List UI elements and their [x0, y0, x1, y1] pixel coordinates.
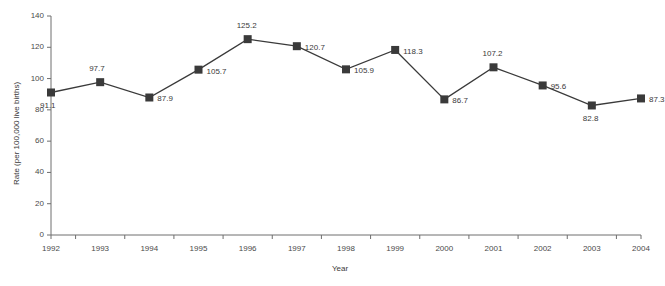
data-point-label: 107.2: [483, 49, 503, 58]
data-point-marker: [391, 46, 399, 54]
data-point-marker: [145, 93, 153, 101]
x-axis-tick-label: 1996: [228, 244, 268, 253]
data-point-label: 95.6: [551, 82, 567, 91]
data-point-marker: [490, 63, 498, 71]
data-point-label: 91.1: [40, 101, 56, 110]
chart-axes: [51, 16, 641, 235]
data-point-marker: [440, 95, 448, 103]
data-point-label: 118.3: [403, 47, 422, 56]
x-axis-tick-label: 1995: [179, 244, 219, 253]
x-axis-tick-label: 2004: [621, 244, 661, 253]
x-axis-tick-label: 1992: [31, 244, 71, 253]
data-point-marker: [637, 94, 645, 102]
x-axis-title: Year: [332, 264, 348, 273]
x-axis-tick-label: 2003: [572, 244, 612, 253]
data-point-label: 105.9: [354, 66, 374, 75]
y-axis-tick-label: 20: [11, 199, 44, 208]
data-point-label: 86.7: [452, 96, 468, 105]
y-axis-ticks: [47, 16, 51, 235]
data-point-marker: [96, 78, 104, 86]
data-point-marker: [47, 88, 55, 96]
data-point-marker: [588, 101, 596, 109]
data-point-marker: [244, 35, 252, 43]
data-point-label: 105.7: [207, 67, 227, 76]
data-point-label: 125.2: [237, 21, 257, 30]
y-axis-tick-label: 140: [11, 11, 44, 20]
y-axis-tick-label: 120: [11, 42, 44, 51]
x-axis-tick-label: 1999: [375, 244, 415, 253]
x-axis-tick-label: 1997: [277, 244, 317, 253]
data-point-marker: [293, 42, 301, 50]
data-point-label: 120.7: [305, 43, 325, 52]
x-axis-tick-label: 2002: [523, 244, 563, 253]
x-axis-tick-label: 2000: [424, 244, 464, 253]
data-point-marker: [342, 65, 350, 73]
x-axis-tick-label: 1993: [80, 244, 120, 253]
data-point-marker: [195, 66, 203, 74]
data-point-marker: [539, 81, 547, 89]
data-point-markers: [47, 35, 645, 109]
y-axis-title: Rate (per 100,000 live births): [12, 82, 21, 185]
data-point-label: 82.8: [583, 114, 599, 123]
x-axis-tick-label: 1994: [129, 244, 169, 253]
data-point-label: 87.9: [157, 94, 173, 103]
x-axis-tick-label: 2001: [474, 244, 514, 253]
x-axis-ticks: [51, 235, 641, 239]
x-axis-tick-label: 1998: [326, 244, 366, 253]
y-axis-tick-label: 0: [11, 230, 44, 239]
data-point-label: 87.3: [649, 95, 665, 104]
data-point-label: 97.7: [89, 64, 105, 73]
